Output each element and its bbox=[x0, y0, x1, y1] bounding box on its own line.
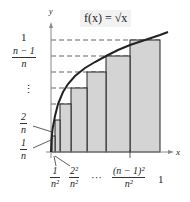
x-axis-label: x bbox=[176, 148, 180, 157]
y-axis-label: y bbox=[49, 8, 53, 16]
y-axis-arrow-icon bbox=[49, 22, 53, 28]
y-label-2-over-n: 2 n bbox=[20, 112, 27, 135]
y-label-dots: ⋮ bbox=[23, 84, 34, 95]
x-label-one: 1 bbox=[158, 174, 164, 185]
function-label: f(x) = √x bbox=[80, 10, 131, 27]
x-label-n-minus-1-sq-over-n2: (n − 1)² n² bbox=[112, 166, 145, 189]
y-label-n-minus-1-over-n: n − 1 n bbox=[12, 46, 36, 69]
x-label-2sq-over-n2: 2² n² bbox=[69, 166, 79, 189]
x-label-dots: ··· bbox=[91, 172, 102, 183]
y-label-1-over-n: 1 n bbox=[20, 138, 27, 161]
x-axis-arrow-icon bbox=[168, 150, 174, 154]
y-label-one: 1 bbox=[21, 32, 27, 43]
x-label-1-over-n2: 1 n² bbox=[50, 166, 60, 189]
